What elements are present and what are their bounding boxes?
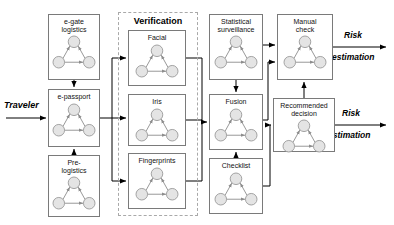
node-label-fingerprints: Fingerprints <box>129 157 185 165</box>
node-epassport: e-passport <box>48 89 100 147</box>
node-label-prelog-line2: logistics <box>62 167 87 174</box>
node-graph-motif-fingerprints <box>135 167 179 205</box>
node-label-manual: Manualcheck <box>278 18 332 34</box>
node-label-epassport: e-passport <box>49 93 99 101</box>
node-label-checklist: Checklist <box>210 162 262 170</box>
node-graph-motif-checklist <box>214 172 258 210</box>
node-egate: e-gatelogistics <box>48 14 100 80</box>
verification-panel-title: Verification <box>119 16 197 26</box>
node-label-recommended: Recommendeddecision <box>274 102 334 118</box>
node-checklist: Checklist <box>209 158 263 214</box>
node-graph-motif-prelog <box>52 176 96 214</box>
node-manual: Manualcheck <box>277 14 333 80</box>
traveler-label: Traveler <box>4 100 39 110</box>
node-label-facial: Facial <box>129 34 185 42</box>
node-statistical: Statisticalsurveillance <box>209 14 263 80</box>
node-facial: Facial <box>128 30 186 86</box>
node-label-prelog: Pre-logistics <box>49 159 99 175</box>
node-recommended: Recommendeddecision <box>273 98 335 152</box>
node-graph-motif-egate <box>52 35 96 73</box>
node-label-recommended-line2: decision <box>291 110 317 117</box>
node-graph-motif-fusion <box>214 108 258 146</box>
node-graph-motif-manual <box>283 35 327 73</box>
node-label-manual-line2: check <box>296 26 314 33</box>
node-graph-motif-iris <box>135 108 179 146</box>
node-graph-motif-epassport <box>52 103 96 141</box>
node-graph-motif-statistical <box>214 35 258 73</box>
node-prelog: Pre-logistics <box>48 155 100 217</box>
node-label-iris: Iris <box>129 98 185 106</box>
risk-estimation-label-top-line1: Risk <box>344 30 362 40</box>
node-label-statistical-line2: surveillance <box>218 26 255 33</box>
node-fusion: Fusion <box>209 94 263 150</box>
node-fingerprints: Fingerprints <box>128 153 186 209</box>
node-graph-motif-facial <box>135 44 179 82</box>
node-graph-motif-recommended <box>282 119 326 157</box>
risk-estimation-label-top-line2: estimation <box>332 52 375 62</box>
node-label-statistical: Statisticalsurveillance <box>210 18 262 34</box>
risk-estimation-label-bottom-line1: Risk <box>342 108 360 118</box>
node-iris: Iris <box>128 94 186 146</box>
node-label-fusion: Fusion <box>210 98 262 106</box>
node-label-egate: e-gatelogistics <box>49 18 99 34</box>
node-label-egate-line2: logistics <box>62 26 87 33</box>
diagram-canvas: Verification Traveler Risk estimation Ri… <box>0 0 394 225</box>
